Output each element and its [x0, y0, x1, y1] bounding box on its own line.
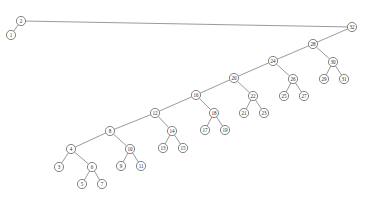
node-label-14: 14	[170, 128, 175, 134]
tree-edge-10-9	[123, 153, 128, 162]
tree-edge-8-4	[75, 133, 106, 147]
tree-node-23[interactable]: 23	[259, 108, 268, 117]
tree-edge-16-18	[199, 98, 211, 110]
tree-edge-10-11	[133, 153, 139, 162]
node-label-10: 10	[128, 146, 133, 152]
tree-node-15[interactable]: 15	[178, 143, 187, 152]
tree-edge-12-14	[158, 116, 169, 127]
node-label-23: 23	[262, 110, 267, 116]
tree-edge-6-5	[84, 171, 89, 180]
node-label-27: 27	[302, 93, 307, 99]
node-label-28: 28	[311, 41, 316, 47]
tree-node-20[interactable]: 20	[229, 73, 238, 82]
tree-edge-22-23	[256, 100, 262, 109]
tree-edge-30-29	[326, 66, 331, 75]
tree-node-27[interactable]: 27	[299, 91, 308, 100]
node-label-13: 13	[161, 145, 166, 151]
tree-edge-18-19	[217, 117, 223, 126]
node-label-19: 19	[223, 127, 228, 133]
tree-edge-16-12	[159, 97, 192, 111]
tree-edge-12-8	[114, 115, 150, 130]
tree-edge-6-7	[94, 171, 99, 180]
tree-edge-18-17	[207, 117, 212, 126]
node-label-11: 11	[139, 163, 144, 169]
node-label-18: 18	[212, 110, 217, 116]
tree-node-14[interactable]: 14	[167, 126, 176, 135]
tree-node-29[interactable]: 29	[319, 74, 328, 83]
tree-node-19[interactable]: 19	[220, 125, 229, 134]
tree-node-30[interactable]: 30	[328, 57, 337, 66]
tree-edge-24-20	[238, 63, 269, 76]
node-label-29: 29	[322, 76, 327, 82]
tree-edge-14-15	[175, 135, 181, 144]
tree-node-32[interactable]: 32	[347, 22, 356, 31]
tree-edge-8-10	[113, 134, 126, 146]
tree-node-9[interactable]: 9	[116, 161, 125, 170]
node-label-21: 21	[242, 110, 247, 116]
tree-node-28[interactable]: 28	[308, 39, 317, 48]
tree-edge-2-32	[26, 21, 348, 27]
tree-edge-32-28	[317, 29, 348, 42]
tree-node-6[interactable]: 6	[87, 162, 96, 171]
tree-node-17[interactable]: 17	[200, 125, 209, 134]
tree-edge-2-1	[14, 25, 19, 32]
node-label-15: 15	[181, 145, 186, 151]
tree-node-25[interactable]: 25	[279, 91, 288, 100]
node-label-20: 20	[232, 75, 237, 81]
tree-node-5[interactable]: 5	[77, 179, 86, 188]
tree-node-16[interactable]: 16	[191, 90, 200, 99]
tree-edge-30-31	[336, 66, 342, 75]
tree-node-24[interactable]: 24	[268, 56, 277, 65]
node-label-24: 24	[271, 58, 276, 64]
tree-edge-20-16	[200, 80, 230, 93]
tree-node-11[interactable]: 11	[136, 161, 145, 170]
tree-edge-14-13	[165, 135, 170, 144]
node-label-16: 16	[194, 92, 199, 98]
tree-canvas: 2132283029312426252720222123161817191214…	[0, 0, 372, 200]
tree-node-3[interactable]: 3	[54, 162, 63, 171]
edge-layer	[14, 21, 348, 180]
tree-node-12[interactable]: 12	[150, 108, 159, 117]
tree-edge-20-22	[237, 81, 249, 93]
node-label-30: 30	[331, 59, 336, 65]
tree-node-31[interactable]: 31	[339, 74, 348, 83]
node-label-32: 32	[350, 24, 355, 30]
node-label-25: 25	[282, 93, 287, 99]
binary-tree-figure: 2132283029312426252720222123161817191214…	[0, 0, 372, 200]
tree-node-18[interactable]: 18	[209, 108, 218, 117]
node-label-31: 31	[342, 76, 347, 82]
tree-edge-28-24	[277, 46, 309, 59]
tree-node-4[interactable]: 4	[66, 144, 75, 153]
tree-node-13[interactable]: 13	[158, 143, 167, 152]
node-layer: 2132283029312426252720222123161817191214…	[6, 16, 356, 188]
node-label-22: 22	[251, 93, 256, 99]
tree-node-8[interactable]: 8	[105, 126, 114, 135]
tree-edge-4-3	[62, 153, 69, 163]
tree-node-1[interactable]: 1	[6, 30, 15, 39]
tree-node-22[interactable]: 22	[248, 91, 257, 100]
tree-node-26[interactable]: 26	[288, 74, 297, 83]
tree-node-2[interactable]: 2	[16, 16, 25, 25]
tree-node-7[interactable]: 7	[97, 179, 106, 188]
tree-node-10[interactable]: 10	[125, 144, 134, 153]
node-label-12: 12	[153, 110, 158, 116]
tree-edge-22-21	[246, 100, 251, 109]
tree-node-21[interactable]: 21	[239, 108, 248, 117]
tree-edge-26-25	[286, 83, 291, 92]
tree-edge-4-6	[74, 152, 88, 164]
tree-edge-26-27	[296, 83, 302, 92]
tree-edge-28-30	[316, 47, 329, 59]
tree-edge-24-26	[276, 64, 289, 76]
node-label-26: 26	[291, 76, 296, 82]
node-label-17: 17	[203, 127, 208, 133]
